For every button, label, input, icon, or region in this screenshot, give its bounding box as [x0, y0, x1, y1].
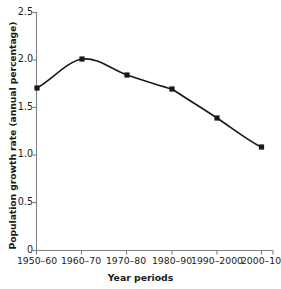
data-point [124, 72, 129, 77]
data-point [259, 144, 264, 149]
data-point [214, 115, 219, 120]
chart-svg [0, 0, 281, 289]
data-point [169, 86, 174, 91]
data-point [79, 56, 84, 61]
x-axis-ticks [37, 251, 274, 255]
data-point [34, 85, 39, 90]
data-series-line [37, 59, 261, 147]
data-markers [34, 56, 264, 149]
axis-spines [37, 12, 274, 251]
plot-area [0, 0, 281, 289]
y-axis-ticks [33, 13, 37, 251]
chart-figure: Population growth rate (annual percentag… [0, 0, 281, 289]
